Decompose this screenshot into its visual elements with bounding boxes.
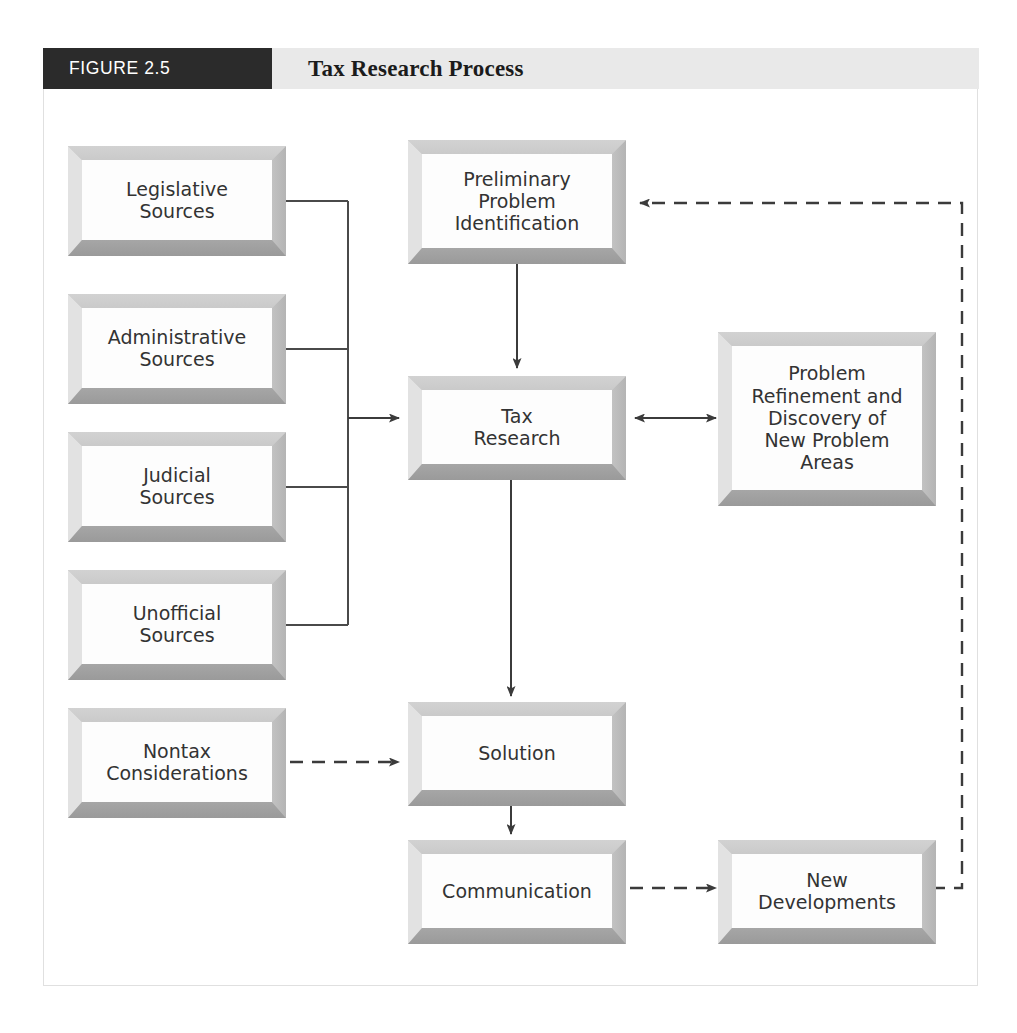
node-bevel-right	[922, 840, 936, 944]
node-taxresearch[interactable]: Tax Research	[408, 376, 626, 480]
node-bevel-top	[68, 570, 286, 584]
node-bevel-top	[68, 432, 286, 446]
node-bevel-bottom	[68, 388, 286, 404]
node-bevel-left	[718, 840, 732, 944]
node-label: New Developments	[732, 854, 922, 928]
figure-title: Tax Research Process	[272, 48, 979, 89]
node-bevel-bottom	[68, 802, 286, 818]
node-label: Unofficial Sources	[82, 584, 272, 664]
node-label: Solution	[422, 716, 612, 790]
node-bevel-bottom	[408, 928, 626, 944]
node-bevel-right	[272, 146, 286, 256]
node-bevel-right	[272, 570, 286, 680]
node-judicial[interactable]: Judicial Sources	[68, 432, 286, 542]
node-bevel-left	[68, 294, 82, 404]
node-bevel-bottom	[68, 240, 286, 256]
node-bevel-right	[272, 294, 286, 404]
node-label: Nontax Considerations	[82, 722, 272, 802]
node-newdev[interactable]: New Developments	[718, 840, 936, 944]
node-bevel-bottom	[408, 790, 626, 806]
node-label: Preliminary Problem Identification	[422, 154, 612, 248]
node-label: Administrative Sources	[82, 308, 272, 388]
node-communication[interactable]: Communication	[408, 840, 626, 944]
node-bevel-right	[612, 140, 626, 264]
node-bevel-left	[68, 146, 82, 256]
node-bevel-right	[922, 332, 936, 506]
node-bevel-bottom	[408, 248, 626, 264]
node-bevel-bottom	[718, 490, 936, 506]
node-label: Communication	[422, 854, 612, 928]
node-bevel-top	[408, 376, 626, 390]
node-nontax[interactable]: Nontax Considerations	[68, 708, 286, 818]
node-bevel-bottom	[408, 464, 626, 480]
node-bevel-right	[272, 708, 286, 818]
node-bevel-top	[408, 702, 626, 716]
node-bevel-left	[408, 702, 422, 806]
figure-number-label: FIGURE 2.5	[43, 48, 272, 89]
node-preliminary[interactable]: Preliminary Problem Identification	[408, 140, 626, 264]
node-legislative[interactable]: Legislative Sources	[68, 146, 286, 256]
node-label: Tax Research	[422, 390, 612, 464]
node-bevel-top	[408, 140, 626, 154]
node-label: Judicial Sources	[82, 446, 272, 526]
node-bevel-top	[68, 708, 286, 722]
node-bevel-left	[718, 332, 732, 506]
node-bevel-top	[68, 294, 286, 308]
node-solution[interactable]: Solution	[408, 702, 626, 806]
node-bevel-top	[718, 332, 936, 346]
node-unofficial[interactable]: Unofficial Sources	[68, 570, 286, 680]
node-bevel-right	[612, 376, 626, 480]
node-bevel-bottom	[68, 526, 286, 542]
node-bevel-right	[272, 432, 286, 542]
node-bevel-right	[612, 840, 626, 944]
node-bevel-left	[408, 840, 422, 944]
node-bevel-top	[718, 840, 936, 854]
node-bevel-left	[408, 376, 422, 480]
node-bevel-left	[68, 570, 82, 680]
node-administrative[interactable]: Administrative Sources	[68, 294, 286, 404]
node-bevel-left	[68, 432, 82, 542]
node-bevel-top	[408, 840, 626, 854]
node-bevel-left	[408, 140, 422, 264]
node-bevel-right	[612, 702, 626, 806]
node-bevel-bottom	[718, 928, 936, 944]
node-bevel-top	[68, 146, 286, 160]
node-label: Problem Refinement and Discovery of New …	[732, 346, 922, 490]
node-label: Legislative Sources	[82, 160, 272, 240]
node-bevel-left	[68, 708, 82, 818]
node-bevel-bottom	[68, 664, 286, 680]
node-refinement[interactable]: Problem Refinement and Discovery of New …	[718, 332, 936, 506]
figure-header: FIGURE 2.5 Tax Research Process	[43, 48, 979, 89]
